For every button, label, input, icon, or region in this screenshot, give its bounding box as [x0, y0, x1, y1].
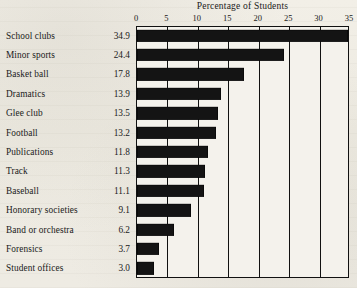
category-label: Football: [6, 128, 38, 138]
bar: [137, 262, 154, 274]
category-label: Forensics: [6, 244, 43, 254]
x-tick-label: 10: [193, 13, 202, 23]
bar-row: Baseball11.1: [0, 181, 357, 200]
x-tick-label: 35: [345, 13, 354, 23]
bar-row: School clubs34.9: [0, 26, 357, 45]
bar: [137, 146, 208, 158]
category-label: Band or orchestra: [6, 225, 74, 235]
bar-row: Glee club13.5: [0, 104, 357, 123]
bar-row: Forensics3.7: [0, 239, 357, 258]
bar-row: Band or orchestra6.2: [0, 220, 357, 239]
category-label: Track: [6, 166, 28, 176]
value-label: 11.8: [96, 147, 130, 157]
bar-chart: Percentage of Students 05101520253035 Sc…: [0, 0, 357, 288]
bar-row: Basket ball17.8: [0, 65, 357, 84]
value-label: 9.1: [96, 205, 130, 215]
category-label: Glee club: [6, 108, 43, 118]
x-tick-label: 0: [134, 13, 138, 23]
x-tick-label: 5: [164, 13, 168, 23]
value-label: 13.2: [96, 128, 130, 138]
category-label: Minor sports: [6, 50, 55, 60]
bar: [137, 126, 216, 138]
bar: [137, 185, 204, 197]
bar: [137, 223, 174, 235]
bar: [137, 165, 205, 177]
value-label: 11.3: [96, 166, 130, 176]
bar-rows: School clubs34.9Minor sports24.4Basket b…: [0, 26, 357, 278]
value-label: 13.5: [96, 108, 130, 118]
category-label: Publications: [6, 147, 53, 157]
bar: [137, 88, 221, 100]
bar: [137, 29, 348, 41]
value-label: 3.0: [96, 263, 130, 273]
x-tick-label: 20: [253, 13, 262, 23]
category-label: Basket ball: [6, 69, 49, 79]
x-tick-label: 30: [314, 13, 323, 23]
value-label: 3.7: [96, 244, 130, 254]
value-label: 34.9: [96, 31, 130, 41]
x-tick-label: 15: [223, 13, 232, 23]
bar-row: Honorary societies9.1: [0, 200, 357, 219]
category-label: Dramatics: [6, 89, 45, 99]
bar: [137, 204, 191, 216]
x-tick-label: 25: [284, 13, 293, 23]
bar-row: Minor sports24.4: [0, 45, 357, 64]
category-label: School clubs: [6, 31, 55, 41]
value-label: 24.4: [96, 50, 130, 60]
chart-title: Percentage of Students: [136, 1, 349, 11]
bar-row: Track11.3: [0, 162, 357, 181]
value-label: 6.2: [96, 225, 130, 235]
bar-row: Student offices3.0: [0, 259, 357, 278]
bar-row: Football13.2: [0, 123, 357, 142]
bar: [137, 68, 244, 80]
x-axis-tick-labels: 05101520253035: [0, 13, 357, 25]
category-label: Honorary societies: [6, 205, 78, 215]
bar-row: Dramatics13.9: [0, 84, 357, 103]
bar: [137, 107, 218, 119]
category-label: Baseball: [6, 186, 39, 196]
category-label: Student offices: [6, 263, 63, 273]
value-label: 17.8: [96, 69, 130, 79]
bar: [137, 49, 284, 61]
value-label: 11.1: [96, 186, 130, 196]
bar: [137, 243, 159, 255]
value-label: 13.9: [96, 89, 130, 99]
bar-row: Publications11.8: [0, 142, 357, 161]
